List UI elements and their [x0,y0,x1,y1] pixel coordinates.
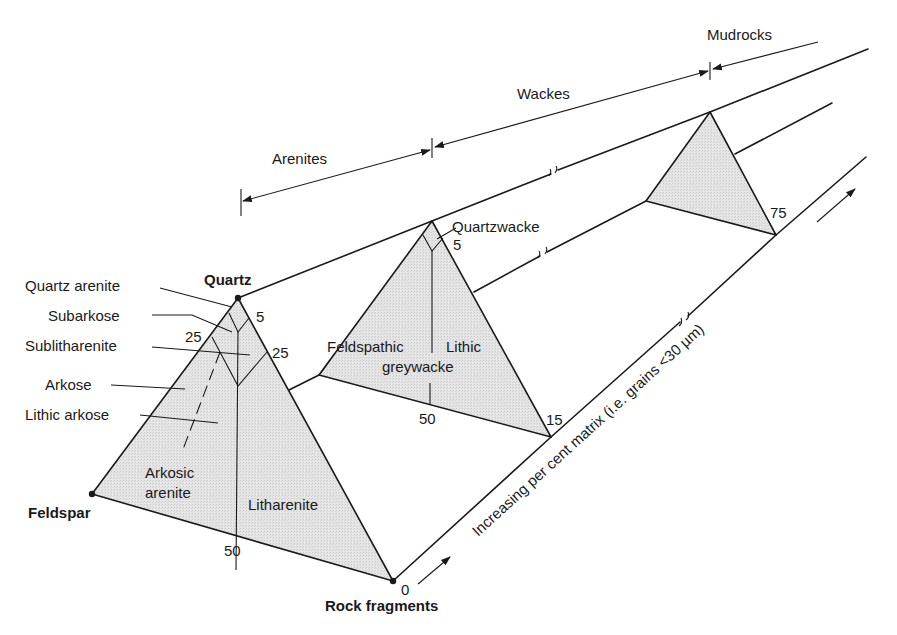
label-quartz-arenite: Quartz arenite [25,277,120,294]
rail-bottom-seg4 [776,157,866,235]
label-lithic-arkose: Lithic arkose [25,406,109,423]
wackes-range-arrow [435,71,708,147]
rail-mid-seg1 [289,375,319,390]
rail-mid-seg4 [735,103,832,154]
label-feldspathic: Feldspathic [327,338,404,355]
break-mark-bottom [679,312,689,326]
label-arenites: Arenites [272,150,327,167]
rail-top-seg4 [710,49,868,112]
tick-arenite-base50: 50 [224,542,241,559]
break-mark-top [549,166,557,176]
label-feldspar: Feldspar [28,504,91,521]
label-greywacke: greywacke [382,358,454,375]
label-quartzwacke: Quartzwacke [452,218,540,235]
rock-fragments-vertex-dot [390,578,396,584]
tick-matrix-75: 75 [770,204,787,221]
rail-bottom-seg3 [688,235,776,316]
wacke-triangle [319,221,551,437]
tick-arenite-q25-left: 25 [185,328,202,345]
sandstone-classification-diagram: Arenites Wackes Mudrocks Quartz Feldspar… [0,0,897,635]
label-arkose: Arkose [45,376,92,393]
tick-matrix-15: 15 [546,411,563,428]
tick-wacke-base50: 50 [419,410,436,427]
mudrock-triangle-shape [646,112,776,235]
label-quartz: Quartz [204,271,252,288]
label-lithic: Lithic [446,338,482,355]
rail-top-seg2 [432,174,551,221]
feldspar-vertex-dot [89,491,95,497]
label-sublitharenite: Sublitharenite [25,337,117,354]
label-rock-fragments: Rock fragments [325,597,438,614]
quartz-vertex-dot [235,295,241,301]
rail-mid-seg3 [547,201,646,252]
label-litharenite: Litharenite [248,496,318,513]
mudrocks-range-arrow [713,42,818,69]
tick-matrix-0: 0 [401,581,409,598]
label-mudrocks: Mudrocks [707,26,772,43]
label-arkosic-line2: arenite [145,484,191,501]
leader-quartz-arenite [160,288,232,307]
mudrock-triangle [646,112,776,235]
tick-arenite-q5: 5 [256,308,264,325]
label-subarkose: Subarkose [48,307,120,324]
matrix-direction-arrow-bottom [418,557,450,584]
label-wackes: Wackes [517,85,570,102]
tick-arenite-q25-right: 25 [272,344,289,361]
rail-bottom-seg2 [551,322,680,437]
rail-bottom-seg1 [393,437,551,581]
break-mark-mid [538,247,547,258]
label-arkosic-line1: Arkosic [145,464,195,481]
tick-wacke-q5: 5 [453,236,461,253]
wacke-triangle-shape [319,221,551,437]
rail-mid-seg2 [474,256,540,292]
